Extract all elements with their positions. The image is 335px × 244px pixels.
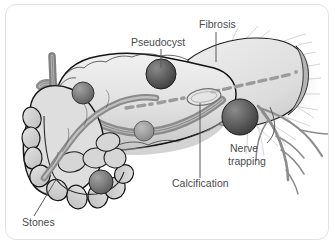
label-nerve-trapping-line1: Nerve (230, 142, 258, 154)
label-nerve-trapping-line2: trapping (228, 155, 266, 167)
pseudocyst-upper-left (72, 82, 94, 104)
label-stones: Stones (22, 216, 55, 228)
pseudocyst-mid (134, 121, 154, 141)
pseudocyst-right (222, 99, 258, 135)
label-fibrosis: Fibrosis (199, 18, 236, 30)
pancreas-illustration: Pseudocyst Fibrosis Nerve trapping Calci… (0, 0, 335, 244)
figure-root: Pseudocyst Fibrosis Nerve trapping Calci… (0, 0, 335, 244)
duct-end-dot (294, 70, 298, 74)
label-pseudocyst: Pseudocyst (131, 36, 185, 48)
label-calcification: Calcification (172, 177, 229, 189)
stone-large (89, 170, 113, 194)
